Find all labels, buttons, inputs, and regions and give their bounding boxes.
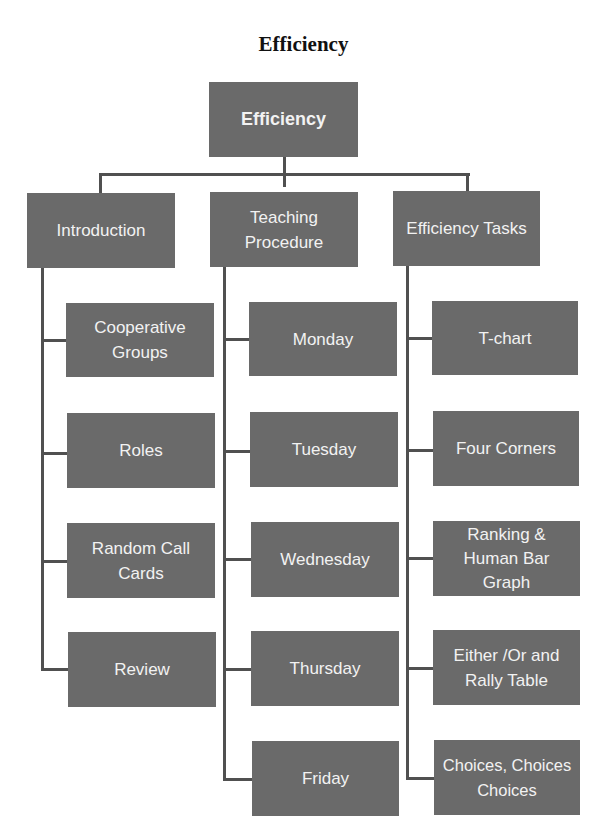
connector-branch: [406, 337, 432, 340]
connector-branch: [41, 560, 68, 563]
node-friday: Friday: [252, 741, 399, 816]
node-label: Teaching Procedure: [245, 205, 323, 255]
node-review: Review: [68, 632, 216, 707]
node-label: Choices, Choices Choices: [443, 753, 571, 803]
node-label: Efficiency Tasks: [406, 216, 526, 241]
connector-branch: [406, 777, 434, 780]
node-roles: Roles: [67, 413, 215, 488]
node-either-or-rally-table: Either /Or and Rally Table: [433, 630, 580, 705]
node-label: Friday: [302, 766, 349, 791]
node-ranking-human-bar-graph: Ranking & Human Bar Graph: [433, 521, 580, 596]
node-cooperative-groups: Cooperative Groups: [66, 303, 214, 377]
node-random-call-cards: Random Call Cards: [67, 523, 215, 598]
connector-branch: [41, 339, 66, 342]
node-label: Tuesday: [292, 437, 357, 462]
node-efficiency-tasks: Efficiency Tasks: [393, 191, 540, 266]
connector-branch: [223, 338, 249, 341]
node-label: Introduction: [57, 218, 146, 243]
node-label: Random Call Cards: [92, 536, 190, 586]
connector-branch: [406, 557, 433, 560]
connector-branch: [406, 449, 433, 452]
diagram-title: Efficiency: [0, 32, 607, 57]
node-wednesday: Wednesday: [251, 522, 399, 597]
node-tuesday: Tuesday: [250, 412, 398, 487]
node-label: Ranking & Human Bar Graph: [464, 523, 550, 595]
connector-intro-trunk: [41, 268, 44, 671]
node-introduction: Introduction: [27, 193, 175, 268]
node-label: Monday: [293, 327, 353, 352]
connector-intro-drop: [99, 173, 102, 193]
node-four-corners: Four Corners: [433, 411, 579, 486]
connector-branch: [41, 452, 67, 455]
connector-branch: [223, 558, 251, 561]
connector-root-horizontal: [99, 173, 470, 176]
node-label: Four Corners: [456, 436, 556, 461]
connector-branch: [406, 667, 433, 670]
connector-branch: [223, 668, 251, 671]
node-label: Either /Or and Rally Table: [454, 643, 560, 693]
node-t-chart: T-chart: [432, 301, 578, 375]
connector-branch: [223, 778, 252, 781]
node-root-efficiency: Efficiency: [209, 82, 358, 157]
node-choices-choices-choices: Choices, Choices Choices: [434, 740, 580, 815]
connector-branch: [41, 668, 68, 671]
node-label: Review: [114, 657, 170, 682]
connector-root-down: [283, 157, 286, 187]
connector-branch: [223, 450, 250, 453]
node-thursday: Thursday: [251, 631, 399, 706]
node-label: Efficiency: [241, 107, 326, 132]
connector-tasks-trunk: [406, 266, 409, 780]
node-label: Cooperative Groups: [94, 315, 186, 365]
node-label: Roles: [119, 438, 162, 463]
node-label: T-chart: [479, 326, 532, 351]
connector-tasks-drop: [466, 173, 469, 191]
node-label: Thursday: [290, 656, 361, 681]
node-teaching-procedure: Teaching Procedure: [210, 192, 358, 267]
node-monday: Monday: [249, 302, 397, 376]
connector-teaching-trunk: [223, 267, 226, 781]
node-label: Wednesday: [280, 547, 369, 572]
